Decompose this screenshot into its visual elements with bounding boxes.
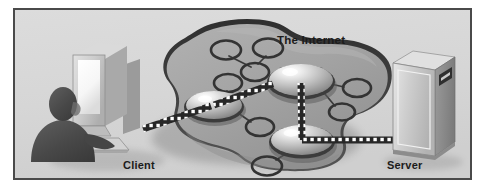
label-server: Server (387, 160, 422, 171)
diagram-frame: The Internet Client Server (13, 8, 472, 180)
monitor-right-face (105, 46, 127, 126)
server-front-face (393, 63, 435, 156)
monitor-screen (78, 60, 100, 114)
data-path-hubtop-to-hubbottom (301, 83, 302, 140)
diagram-figure: The Internet Client Server (0, 0, 485, 189)
label-client: Client (123, 160, 155, 171)
label-the-internet: The Internet (277, 35, 345, 47)
network-diagram-canvas (15, 10, 470, 178)
